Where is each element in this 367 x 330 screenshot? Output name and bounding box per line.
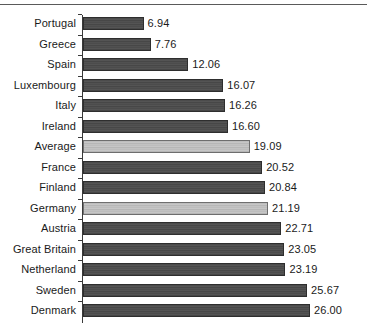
axis-tick [78, 260, 82, 261]
bar-value-label: 20.84 [269, 180, 297, 194]
axis-tick [78, 199, 82, 200]
bar-value-label: 26.00 [314, 303, 342, 317]
bar-value-label: 21.19 [272, 201, 300, 215]
chart-row: Germany21.19 [0, 199, 367, 219]
chart-row: Greece7.76 [0, 35, 367, 55]
axis-tick [78, 96, 82, 97]
axis-tick [78, 178, 82, 179]
bar-value-label: 20.52 [266, 160, 294, 174]
chart-row: France20.52 [0, 158, 367, 178]
bar-value-label: 23.05 [288, 242, 316, 256]
bar [83, 140, 250, 153]
axis-tick [78, 35, 82, 36]
axis-tick [78, 301, 82, 302]
chart-row: Finland20.84 [0, 178, 367, 198]
category-label: Austria [0, 221, 76, 235]
bar-value-label: 7.76 [155, 37, 177, 51]
bar-value-label: 22.71 [285, 221, 313, 235]
bar-value-label: 16.07 [227, 78, 255, 92]
bar [83, 99, 225, 112]
bar-value-label: 6.94 [148, 16, 170, 30]
bar [83, 263, 285, 276]
bar-value-label: 16.26 [229, 98, 257, 112]
chart-row: Ireland16.60 [0, 117, 367, 137]
category-label: Netherland [0, 262, 76, 276]
category-label: Finland [0, 180, 76, 194]
axis-tick [78, 219, 82, 220]
bar-value-label: 25.67 [311, 283, 339, 297]
chart-row: Sweden25.67 [0, 281, 367, 301]
chart-row: Italy16.26 [0, 96, 367, 116]
bar [83, 38, 151, 51]
category-label: Germany [0, 201, 76, 215]
bar [83, 284, 307, 297]
bar [83, 181, 265, 194]
axis-tick [78, 14, 82, 15]
bar [83, 120, 228, 133]
bar [83, 243, 284, 256]
axis-tick [78, 137, 82, 138]
bar [83, 222, 281, 235]
category-label: Denmark [0, 303, 76, 317]
category-label: Luxembourg [0, 78, 76, 92]
chart-row: Denmark26.00 [0, 301, 367, 321]
bar [83, 161, 262, 174]
axis-tick [78, 158, 82, 159]
plot-area: Portugal6.94Greece7.76Spain12.06Luxembou… [0, 12, 367, 328]
chart-row: Netherland23.19 [0, 260, 367, 280]
axis-tick [78, 281, 82, 282]
category-label: France [0, 160, 76, 174]
bar [83, 58, 188, 71]
bar [83, 304, 310, 317]
bar [83, 79, 223, 92]
axis-tick [78, 117, 82, 118]
bar-value-label: 23.19 [289, 262, 317, 276]
axis-tick [78, 76, 82, 77]
bar-chart-figure: Portugal6.94Greece7.76Spain12.06Luxembou… [0, 0, 367, 330]
category-label: Spain [0, 57, 76, 71]
bar-value-label: 12.06 [192, 57, 220, 71]
bar [83, 202, 268, 215]
bar [83, 17, 144, 30]
category-label: Greece [0, 37, 76, 51]
bar-value-label: 19.09 [254, 139, 282, 153]
chart-row: Luxembourg16.07 [0, 76, 367, 96]
chart-row: Austria22.71 [0, 219, 367, 239]
category-label: Average [0, 139, 76, 153]
category-label: Ireland [0, 119, 76, 133]
top-horizontal-rule [0, 4, 367, 5]
category-label: Italy [0, 98, 76, 112]
chart-row: Spain12.06 [0, 55, 367, 75]
category-label: Sweden [0, 283, 76, 297]
axis-tick [78, 240, 82, 241]
axis-tick [78, 55, 82, 56]
chart-row: Great Britain23.05 [0, 240, 367, 260]
bar-value-label: 16.60 [232, 119, 260, 133]
chart-row: Portugal6.94 [0, 14, 367, 34]
category-label: Portugal [0, 16, 76, 30]
chart-row: Average19.09 [0, 137, 367, 157]
category-label: Great Britain [0, 242, 76, 256]
